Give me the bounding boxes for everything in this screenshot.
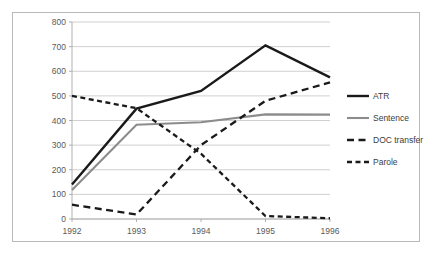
x-axis-tick-label: 1995 [256,226,275,236]
x-axis-tick-label: 1992 [63,226,82,236]
series-line-sentence [72,114,330,190]
x-axis-tick-label: 1994 [192,226,211,236]
chart-legend: ATRSentenceDOC transferParole [347,91,423,167]
x-axis-tick-label: 1993 [127,226,146,236]
y-axis-tick-label: 0 [61,214,66,224]
gridlines [72,22,330,219]
x-axis-tick-label: 1996 [321,226,340,236]
y-axis-tick-label: 200 [52,165,66,175]
y-axis-tick-label: 500 [52,91,66,101]
y-axis-tick-label: 400 [52,116,66,126]
legend-label-parole: Parole [373,157,398,167]
legend-label-sentence: Sentence [373,113,409,123]
y-axis-tick-labels: 8007006005004003002001000 [52,17,72,224]
y-axis-tick-label: 600 [52,66,66,76]
legend-label-doc-transfer: DOC transfer [373,135,423,145]
y-axis-tick-label: 800 [52,17,66,27]
y-axis-tick-label: 100 [52,189,66,199]
y-axis-tick-label: 700 [52,42,66,52]
y-axis-tick-label: 300 [52,140,66,150]
line-chart: 8007006005004003002001000 19921993199419… [0,0,433,255]
legend-label-atr: ATR [373,91,389,101]
x-axis-tick-labels: 19921993199419951996 [63,219,340,236]
chart-container: 8007006005004003002001000 19921993199419… [0,0,433,255]
